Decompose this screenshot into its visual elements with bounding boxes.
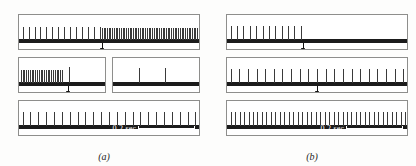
spike	[85, 112, 86, 126]
spike-group	[19, 15, 199, 40]
scale-bar-label: 0.2 sec	[113, 124, 139, 133]
trace-box	[18, 57, 106, 93]
trace-box-wrap	[18, 14, 200, 50]
spike	[64, 27, 65, 40]
spike	[269, 26, 270, 40]
spike	[386, 69, 387, 83]
spike	[195, 112, 196, 126]
spike	[307, 112, 308, 126]
trace-box: 0.2 sec	[18, 100, 200, 136]
trace-box-wrap	[18, 57, 200, 93]
spike	[109, 112, 110, 126]
spike	[302, 112, 303, 126]
spike	[274, 69, 275, 83]
spike	[35, 27, 36, 40]
spike	[76, 27, 77, 40]
spike-row-a-3: 30.2 sec	[18, 100, 200, 136]
trace-box-wrap: 0.2 sec	[18, 100, 200, 136]
spike-row-b-3: 30.2 sec	[226, 100, 408, 136]
spike-group	[19, 101, 199, 126]
spike	[69, 67, 70, 83]
spike	[343, 69, 344, 83]
trace-box: 0.2 sec	[226, 100, 408, 136]
scale-bar: 0.2 sec	[113, 124, 196, 133]
spike-group	[227, 58, 407, 83]
spike	[30, 112, 31, 126]
spike	[40, 27, 41, 40]
spike	[250, 26, 251, 40]
spike-row-b-2: 2	[226, 57, 408, 93]
spike	[46, 112, 47, 126]
spike	[237, 26, 238, 40]
spike	[300, 69, 301, 83]
spike	[405, 112, 406, 126]
spike	[93, 112, 94, 126]
spike	[70, 27, 71, 40]
spike	[282, 69, 283, 83]
spike	[284, 112, 285, 126]
spike	[334, 69, 335, 83]
spike	[257, 112, 258, 126]
trace-box	[226, 14, 408, 50]
spike	[293, 112, 294, 126]
spike	[308, 69, 309, 83]
spike-group	[227, 101, 407, 126]
trace-box	[112, 57, 200, 93]
spike	[52, 27, 53, 40]
spike	[231, 69, 232, 83]
scale-bar-cap	[138, 126, 139, 132]
spike	[275, 26, 276, 40]
stimulus-arrow	[300, 43, 307, 50]
spike	[62, 70, 63, 83]
stimulus-arrow	[99, 43, 106, 50]
spike-train-figure: (a) 1230.2 sec (b) 1230.2 sec	[0, 0, 416, 166]
spike	[139, 68, 140, 83]
spike	[165, 68, 166, 83]
scale-bar-line	[138, 127, 195, 131]
spike	[231, 26, 232, 40]
spike	[257, 69, 258, 83]
spike	[280, 112, 281, 126]
spike	[317, 69, 318, 83]
spike	[244, 112, 245, 126]
scale-bar-cap	[194, 126, 195, 132]
spike	[298, 112, 299, 126]
spike	[352, 69, 353, 83]
scale-bar-cap	[346, 126, 347, 132]
spike	[62, 112, 63, 126]
spike	[266, 112, 267, 126]
spike	[369, 69, 370, 83]
spike	[54, 112, 55, 126]
spike	[291, 69, 292, 83]
spike	[243, 26, 244, 40]
trace-box-wrap	[226, 14, 408, 50]
spike	[231, 112, 232, 126]
spike	[78, 112, 79, 126]
spike-row-b-1: 1	[226, 14, 408, 50]
scale-bar-line	[346, 127, 403, 131]
spike	[263, 26, 264, 40]
spike	[301, 26, 302, 40]
panel-a: (a) 1230.2 sec	[0, 0, 208, 166]
spike	[316, 112, 317, 126]
scale-bar-cap	[402, 126, 403, 132]
trace-box	[226, 57, 408, 93]
spike	[58, 27, 59, 40]
spike	[82, 27, 83, 40]
spike-group	[227, 15, 407, 40]
spike	[23, 27, 24, 40]
spike	[240, 112, 241, 126]
spike	[101, 112, 102, 126]
spike	[288, 26, 289, 40]
spike	[289, 112, 290, 126]
spike	[253, 112, 254, 126]
spike	[94, 27, 95, 40]
spike	[395, 69, 396, 83]
spike	[239, 69, 240, 83]
spike	[265, 69, 266, 83]
spike	[38, 112, 39, 126]
spike	[70, 112, 71, 126]
spike	[294, 26, 295, 40]
spike	[235, 112, 236, 126]
trace-box-wrap: 0.2 sec	[226, 100, 408, 136]
